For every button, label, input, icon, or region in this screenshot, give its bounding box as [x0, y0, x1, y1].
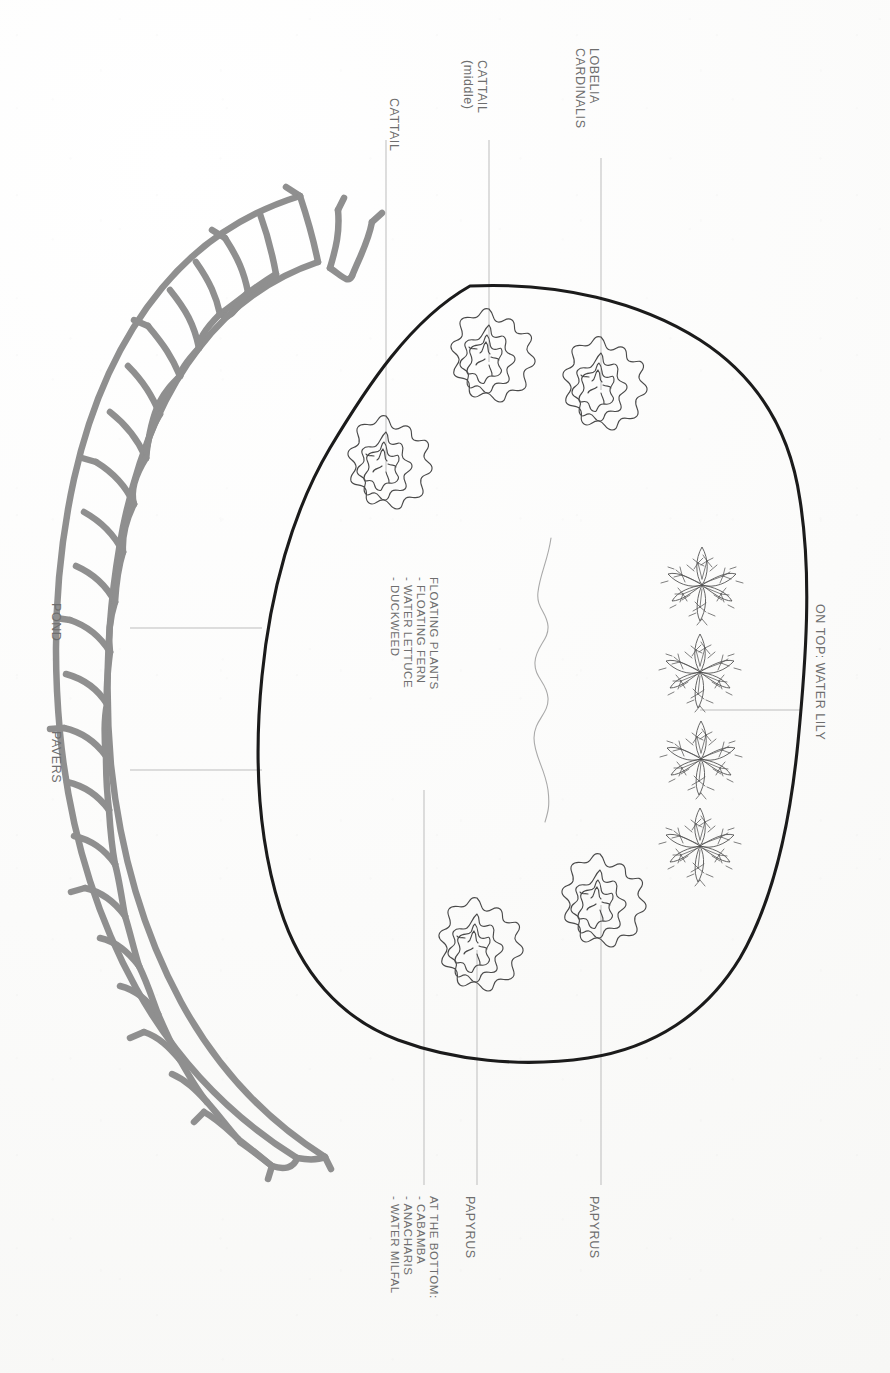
paver-border — [50, 187, 382, 1179]
label-cattail-outer: CATTAIL — [387, 98, 401, 151]
plant-cluster — [439, 898, 523, 991]
plant-cluster — [563, 337, 647, 430]
label-lobelia-cardinalis: LOBELIA CARDINALIS — [573, 48, 601, 129]
papyrus-row — [659, 547, 743, 886]
pond-plan-svg — [0, 0, 890, 1373]
floating-plants-wavy-line — [534, 538, 551, 822]
label-floating-plants-block: FLOATING PLANTS - FLOATING FERN - WATER … — [388, 577, 440, 690]
label-pavers: PAVERS — [49, 731, 63, 783]
papyrus-rosette — [661, 547, 743, 625]
label-on-top-water-lily: ON TOP: WATER LILY — [813, 604, 827, 740]
pond-outline — [258, 285, 807, 1062]
label-papyrus-upper: PAPYRUS — [463, 1196, 477, 1259]
papyrus-rosette — [660, 721, 742, 799]
label-papyrus-lower: PAPYRUS — [587, 1196, 601, 1259]
label-bottom-plants-block: AT THE BOTTOM: - CABAMBA - ANACHARIS - W… — [388, 1196, 440, 1299]
plant-cluster — [562, 854, 646, 947]
label-pond: POND — [49, 603, 63, 641]
plant-cluster — [348, 416, 432, 509]
label-cattail-middle: CATTAIL (middle) — [461, 60, 489, 113]
papyrus-rosette — [659, 634, 741, 712]
drawing-sheet: CATTAIL CATTAIL (middle) LOBELIA CARDINA… — [0, 0, 890, 1373]
papyrus-rosette — [659, 808, 741, 886]
plant-cluster — [451, 309, 535, 402]
